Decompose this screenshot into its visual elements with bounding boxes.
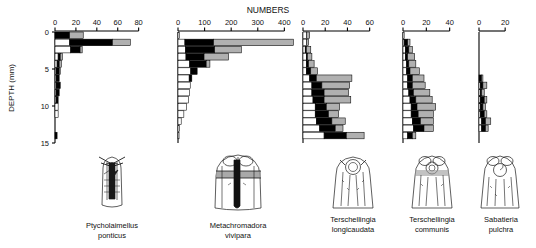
bar-segment-black <box>306 68 310 75</box>
bar-row <box>479 104 486 111</box>
bar-segment-black <box>479 75 482 82</box>
bar-row <box>178 61 210 68</box>
bar-row <box>479 125 488 132</box>
bar-segment-white <box>55 111 58 118</box>
species-genus: Terschellingia <box>330 215 376 224</box>
bar-segment-white <box>403 46 405 53</box>
head-drawing-terschellingia-communis <box>412 156 452 208</box>
bar-row <box>55 68 60 75</box>
bar-row <box>479 82 487 89</box>
bar-segment-white <box>303 82 312 89</box>
bar-segment-grey <box>306 46 310 53</box>
bar-row <box>178 132 179 139</box>
bar-segment-grey <box>329 111 339 118</box>
bar-segment-grey <box>306 32 309 39</box>
bar-segment-grey <box>421 118 434 125</box>
bar-segment-white <box>403 96 410 103</box>
bar-segment-white <box>403 53 405 60</box>
bar-segment-black <box>55 132 57 139</box>
bar-segment-white <box>178 68 191 75</box>
bar-segment-grey <box>346 132 364 139</box>
x-tick-label: 0 <box>301 18 305 27</box>
head-drawing-metachromadora <box>215 155 261 210</box>
bar-segment-grey <box>70 32 84 39</box>
bar-segment-white <box>479 118 482 125</box>
species-genus: Sabatieria <box>484 215 519 224</box>
nematode-depth-distribution-figure: NUMBERS DEPTH (mm) 0 5 10 15 02040608001… <box>0 0 536 248</box>
bar-segment-grey <box>410 68 419 75</box>
bar-segment-grey <box>59 68 60 75</box>
bar-segment-white <box>178 82 190 89</box>
bar-segment-grey <box>307 53 311 60</box>
bar-segment-black <box>409 89 414 96</box>
bar-segment-white <box>55 53 58 60</box>
bar-segment-grey <box>332 118 345 125</box>
bar-segment-black <box>57 61 59 68</box>
depth-tick-15: 15 <box>41 139 49 148</box>
bar-segment-black <box>58 53 60 60</box>
bar-segment-white <box>55 46 71 53</box>
bar-row <box>55 82 60 89</box>
species-genus: Metachromadora <box>210 221 268 230</box>
x-tick-label: 100 <box>198 18 211 27</box>
bar-segment-grey <box>409 46 413 53</box>
bar-segment-white <box>303 32 306 39</box>
bar-segment-grey <box>326 104 339 111</box>
bar-segment-white <box>303 96 313 103</box>
bar-segment-black <box>185 46 214 53</box>
bar-segment-grey <box>80 46 82 53</box>
bar-segment-black <box>56 82 60 89</box>
bar-row <box>178 53 229 60</box>
species-epithet: longicaudata <box>332 225 375 234</box>
bar-segment-grey <box>408 39 410 46</box>
bar-row <box>403 132 416 139</box>
species-genus: Ptycholaimellus <box>86 221 138 230</box>
bar-segment-grey <box>311 68 318 75</box>
bar-row <box>479 96 487 103</box>
species-epithet: pulchra <box>489 225 514 234</box>
bar-row <box>55 96 58 103</box>
bar-row <box>403 111 433 118</box>
bar-segment-grey <box>214 39 294 46</box>
x-tick-label: 40 <box>343 18 351 27</box>
bar-row <box>55 104 58 111</box>
bar-row <box>403 53 415 60</box>
bar-row <box>178 46 241 53</box>
bar-segment-white <box>403 75 408 82</box>
x-tick-label: 20 <box>321 18 329 27</box>
bar-row <box>303 39 309 46</box>
bar-segment-black <box>404 39 408 46</box>
species-label-terschellingia-communis: Terschellingia communis <box>409 215 455 234</box>
bar-row <box>403 82 425 89</box>
bar-row <box>403 125 433 132</box>
bar-segment-grey <box>412 132 416 139</box>
bar-segment-grey <box>483 82 487 89</box>
bar-row <box>303 75 352 82</box>
bar-row <box>178 68 197 75</box>
bar-row <box>55 132 57 139</box>
x-tick-label: 20 <box>422 18 430 27</box>
bar-row <box>403 61 416 68</box>
bar-segment-white <box>479 125 482 132</box>
bar-segment-white <box>303 75 310 82</box>
bar-segment-black <box>480 104 483 111</box>
bar-segment-white <box>178 111 184 118</box>
bar-segment-black <box>306 61 308 68</box>
bar-row <box>178 111 184 118</box>
bar-segment-black <box>407 68 411 75</box>
bar-segment-grey <box>215 46 242 53</box>
x-tick-label: 40 <box>445 18 453 27</box>
species-label-terschellingia-longicaudata: Terschellingia longicaudata <box>330 215 376 234</box>
bar-segment-grey <box>412 82 425 89</box>
bar-row <box>403 118 433 125</box>
species-epithet: vivipara <box>225 231 252 240</box>
bar-segment-black <box>70 39 113 46</box>
bar-segment-black <box>312 82 322 89</box>
bar-row <box>303 68 317 75</box>
bar-segment-black <box>480 96 484 103</box>
bar-segment-white <box>178 39 185 46</box>
bar-segment-white <box>303 125 320 132</box>
bar-segment-black <box>405 46 409 53</box>
x-tick-label: 60 <box>114 18 122 27</box>
bar-segment-white <box>303 68 306 75</box>
